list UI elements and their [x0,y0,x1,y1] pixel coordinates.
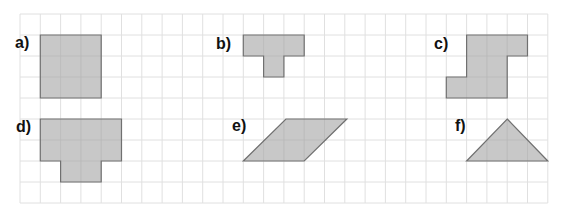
figure-label-a: a) [15,34,29,51]
figure-b [243,35,304,77]
figure-d [40,119,121,182]
figure-a [40,35,101,98]
figure-label-b: b) [216,35,231,52]
figure-c [446,35,527,98]
figure-label-c: c) [434,35,448,52]
figure-grid: a)b)c)d)e)f) [0,0,563,211]
figure-label-d: d) [16,118,31,135]
shapes-layer [40,35,548,182]
figure-label-e: e) [232,117,246,134]
figure-label-f: f) [455,117,466,134]
shape-a-fill [40,35,101,98]
